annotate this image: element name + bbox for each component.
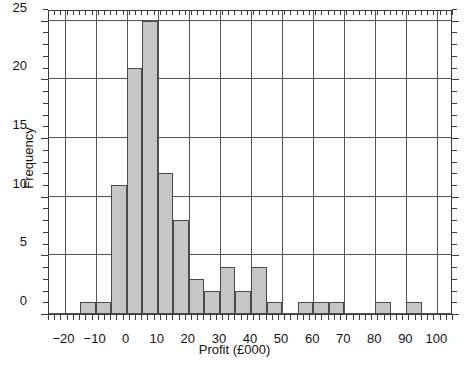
x-tick-minor-top	[129, 10, 130, 15]
gridline-vertical	[65, 11, 66, 314]
x-tick-minor	[328, 315, 329, 320]
x-tick-minor	[421, 315, 422, 320]
x-tick-minor	[129, 315, 130, 320]
x-tick-minor	[446, 315, 447, 320]
y-tick-minor	[43, 68, 48, 69]
y-tick-minor-right	[452, 185, 457, 186]
x-tick-minor	[166, 315, 167, 320]
gridline-horizontal	[49, 78, 451, 79]
x-tick-minor-top	[73, 10, 74, 15]
gridline-vertical	[313, 11, 314, 314]
x-tick-minor	[185, 315, 186, 320]
y-tick-minor	[43, 279, 48, 280]
y-tick-major	[41, 255, 48, 256]
x-tick-minor	[433, 315, 434, 320]
x-tick-minor-top	[433, 10, 434, 15]
x-tick-minor-top	[179, 10, 180, 15]
x-tick-minor	[234, 315, 235, 320]
x-tick-minor	[241, 315, 242, 320]
x-tick-minor-top	[110, 10, 111, 15]
x-tick-minor	[427, 315, 428, 320]
y-tick-label: 15	[13, 117, 27, 132]
x-tick-minor-top	[160, 10, 161, 15]
x-tick-minor	[297, 315, 298, 320]
gridline-horizontal	[49, 196, 451, 197]
y-tick-label: 25	[13, 0, 27, 14]
x-tick-minor	[203, 315, 204, 320]
x-tick-minor-top	[334, 10, 335, 15]
x-tick-minor-top	[104, 10, 105, 15]
gridline-vertical	[406, 11, 407, 314]
histogram-bar	[251, 267, 267, 314]
y-tick-minor	[43, 44, 48, 45]
x-tick-minor-top	[172, 10, 173, 15]
x-tick-minor-top	[315, 10, 316, 15]
x-tick-minor-top	[92, 10, 93, 15]
histogram-bar	[313, 302, 329, 314]
histogram-bar	[127, 68, 143, 314]
x-tick-minor	[440, 315, 441, 320]
y-tick-minor	[43, 291, 48, 292]
x-tick-minor-top	[54, 10, 55, 15]
gridline-vertical	[437, 11, 438, 314]
y-tick-minor	[43, 208, 48, 209]
y-tick-minor-right	[452, 91, 457, 92]
x-tick-minor-top	[116, 10, 117, 15]
x-tick-minor	[272, 315, 273, 320]
x-tick-minor-top	[359, 10, 360, 15]
x-tick-minor-top	[446, 10, 447, 15]
x-tick-minor	[85, 315, 86, 320]
x-tick-minor-top	[396, 10, 397, 15]
x-tick-minor	[340, 315, 341, 320]
y-tick-minor	[43, 162, 48, 163]
x-tick-minor	[216, 315, 217, 320]
x-tick-minor-top	[85, 10, 86, 15]
x-axis-label: Profit (£000)	[0, 342, 469, 357]
y-tick-minor-right	[452, 150, 457, 151]
x-tick-minor-top	[67, 10, 68, 15]
x-tick-minor-top	[328, 10, 329, 15]
gridline-horizontal	[49, 137, 451, 138]
x-tick-minor-top	[185, 10, 186, 15]
x-tick-minor-top	[427, 10, 428, 15]
x-tick-minor-top	[241, 10, 242, 15]
x-tick-minor-top	[60, 10, 61, 15]
gridline-vertical	[189, 11, 190, 314]
y-tick-minor	[43, 244, 48, 245]
x-tick-minor	[48, 315, 49, 320]
x-tick-minor	[266, 315, 267, 320]
y-tick-minor	[43, 150, 48, 151]
gridline-vertical	[282, 11, 283, 314]
x-tick-minor-top	[346, 10, 347, 15]
y-tick-minor	[43, 32, 48, 33]
y-tick-minor	[43, 9, 48, 10]
x-tick-minor	[73, 315, 74, 320]
x-tick-minor-top	[377, 10, 378, 15]
y-tick-minor-right	[452, 244, 457, 245]
x-tick-minor	[253, 315, 254, 320]
y-tick-label: 5	[20, 234, 27, 249]
plot-wrapper: −20−100102030405060708090100 0510152025	[48, 10, 452, 315]
x-tick-minor-top	[234, 10, 235, 15]
x-tick-minor	[309, 315, 310, 320]
y-tick-minor-right	[452, 68, 457, 69]
y-tick-label: 20	[13, 58, 27, 73]
x-tick-minor	[67, 315, 68, 320]
x-tick-minor	[408, 315, 409, 320]
y-tick-label: 0	[20, 293, 27, 308]
x-tick-minor-top	[421, 10, 422, 15]
x-tick-minor	[191, 315, 192, 320]
x-tick-minor-top	[278, 10, 279, 15]
y-tick-major	[41, 79, 48, 80]
histogram-bar	[96, 302, 112, 314]
y-tick-major-right	[452, 138, 459, 139]
x-tick-minor	[334, 315, 335, 320]
x-tick-minor	[123, 315, 124, 320]
y-tick-major	[41, 197, 48, 198]
x-tick-minor	[172, 315, 173, 320]
x-tick-minor-top	[259, 10, 260, 15]
histogram-bar	[329, 302, 345, 314]
y-tick-major-right	[452, 79, 459, 80]
x-tick-minor-top	[452, 10, 453, 15]
gridline-vertical	[96, 11, 97, 314]
